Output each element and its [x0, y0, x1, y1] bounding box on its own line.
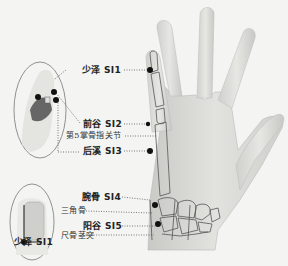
point-si2 [146, 122, 150, 126]
label-mcp-joint: 第5掌骨指关节 [66, 131, 121, 141]
label-si3: 后溪 SI3 [83, 146, 122, 156]
label-si2: 前谷 SI2 [83, 119, 122, 129]
point-si4 [152, 202, 158, 208]
point-si5 [155, 221, 161, 227]
label-triquetrum: 三角骨 [61, 206, 86, 216]
point-si3 [147, 148, 153, 154]
point-si1 [147, 67, 153, 73]
hand-illustration [0, 0, 288, 266]
inset-point-si1 [35, 94, 41, 100]
label-si4: 腕骨 SI4 [82, 192, 121, 202]
inset-nail-view [10, 184, 54, 260]
label-si5: 阳谷 SI5 [83, 221, 122, 231]
inset-point-si2 [51, 89, 57, 95]
label-ulnar-styloid: 尺骨茎突 [61, 231, 94, 241]
acupoint-diagram: 少泽 SI1 前谷 SI2 第5掌骨指关节 后溪 SI3 腕骨 SI4 三角骨 … [0, 0, 288, 266]
label-si1: 少泽 SI1 [82, 65, 121, 75]
label-inset-si1: 少泽 SI1 [14, 237, 53, 247]
inset-point-si3 [53, 97, 59, 103]
